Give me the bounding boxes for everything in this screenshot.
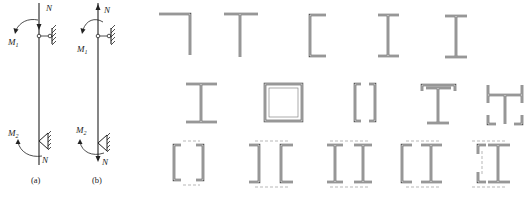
section-double-channel-facing: [355, 84, 375, 121]
section-channel: [310, 15, 326, 56]
section-double-channel-back-to-back: [249, 141, 293, 187]
section-double-channel-lattice: [174, 141, 203, 185]
force-arrow-icon: [96, 4, 101, 10]
column-a-top-moment-label: M1: [7, 37, 19, 48]
section-tee: [224, 14, 258, 57]
moment-arrow-icon: [16, 19, 38, 30]
column-b-top-force-label: N: [103, 5, 111, 15]
column-a-bottom-force-label: N: [41, 155, 49, 165]
moment-arrow-icon: [83, 20, 103, 30]
force-arrow-icon: [37, 24, 42, 30]
section-welded-i: [186, 84, 217, 122]
column-b-top-moment-label: M1: [76, 44, 88, 55]
section-double-i-lattice: [327, 141, 372, 187]
column-a-caption: (a): [31, 175, 41, 185]
section-i-beam: [378, 15, 399, 56]
section-channel-and-i-lattice: [402, 141, 442, 187]
section-i-beam-tapered: [445, 16, 467, 57]
pin-icon: [96, 34, 100, 38]
force-arrow-icon: [96, 156, 101, 162]
section-box: [265, 84, 302, 121]
section-i-with-channel-cap: [422, 85, 455, 123]
column-a-bottom-moment-label: M2: [7, 128, 19, 139]
column-a: N M1 M2 N (a): [7, 3, 56, 185]
pin-icon: [37, 34, 41, 38]
column-b-bottom-force-label: N: [101, 157, 109, 167]
section-angle-and-i-lattice: [472, 141, 510, 187]
column-a-top-force-label: N: [45, 3, 53, 13]
diagram-canvas: N M1 M2 N (a) N M1: [0, 0, 529, 197]
hinge-support-icon: [39, 133, 48, 149]
column-b: N M1 M2 N (b): [75, 3, 115, 185]
hinge-support-icon: [98, 135, 107, 151]
section-angle: [159, 14, 190, 55]
section-h-built-up: [488, 85, 522, 124]
column-b-bottom-moment-label: M2: [75, 125, 87, 136]
moment-arrow-icon: [18, 142, 42, 156]
column-b-caption: (b): [92, 175, 102, 185]
